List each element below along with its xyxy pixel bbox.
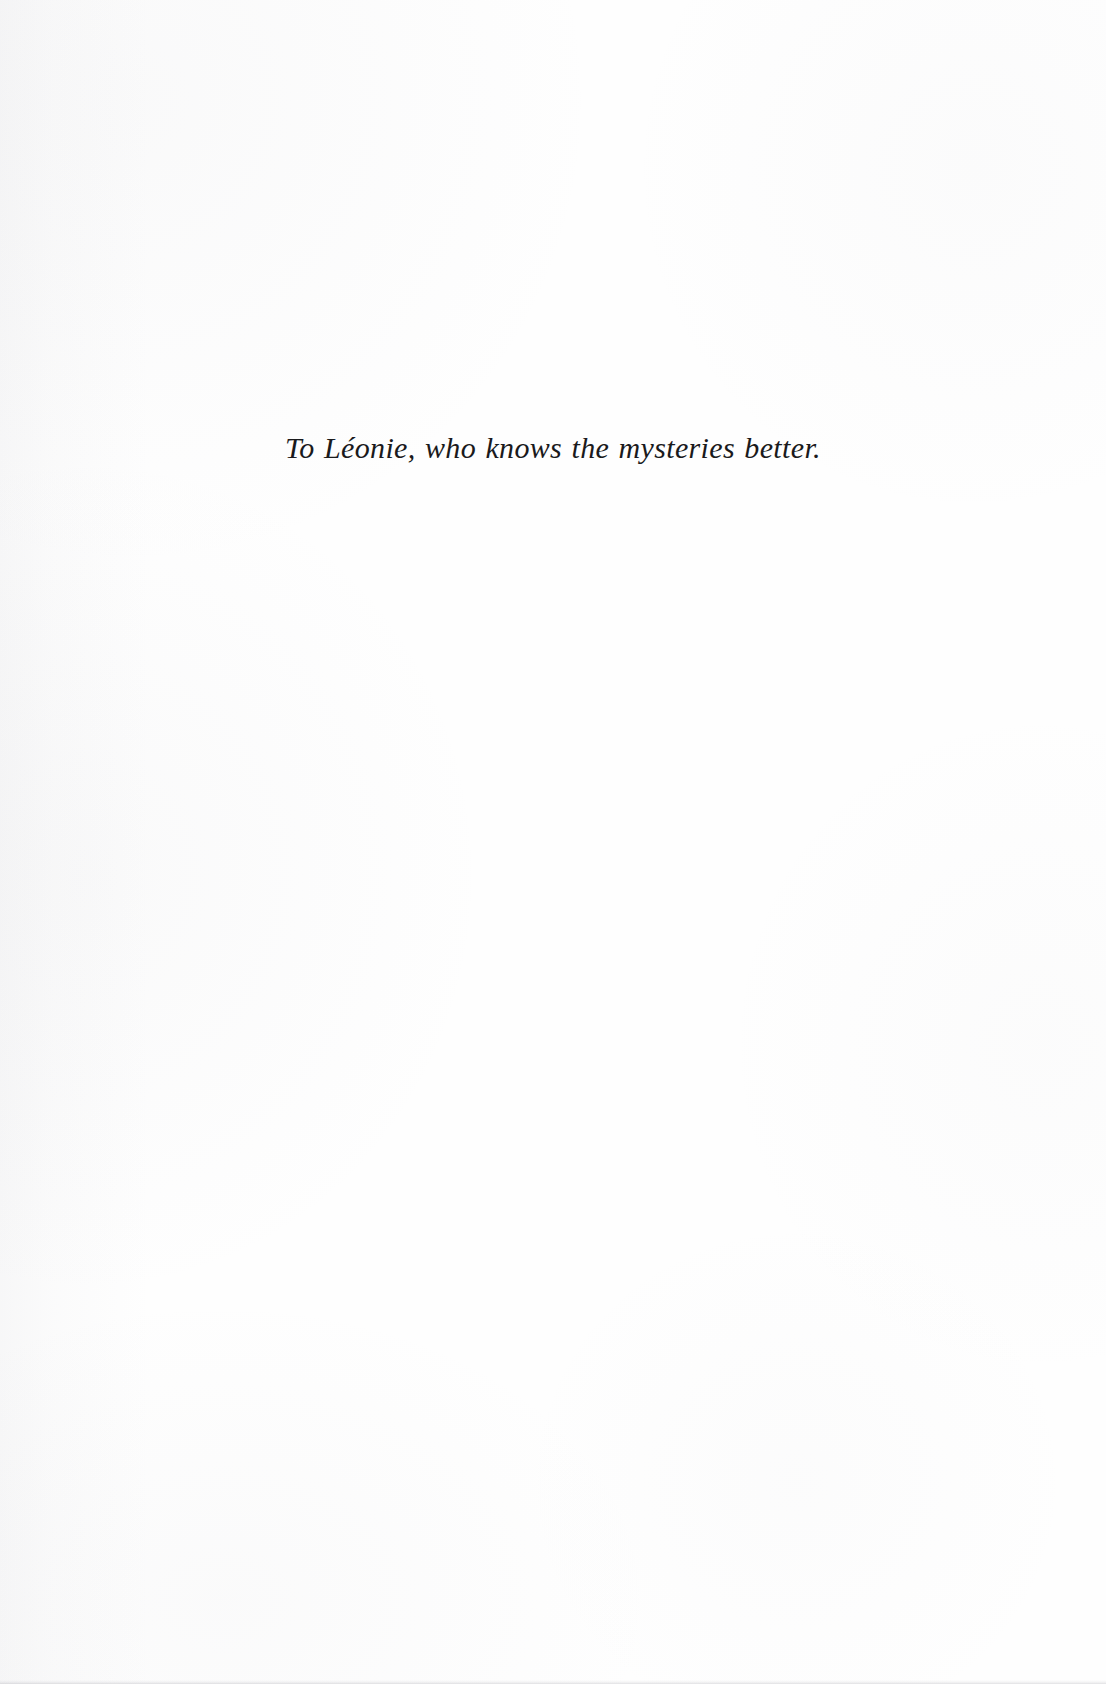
page-bottom-edge-shadow (0, 1680, 1106, 1684)
dedication-block: To Léonie, who knows the mysteries bette… (0, 398, 1106, 498)
dedication-page: To Léonie, who knows the mysteries bette… (0, 0, 1106, 1684)
dedication-text: To Léonie, who knows the mysteries bette… (285, 428, 821, 468)
paper-texture-overlay (0, 0, 1106, 1684)
binding-gutter-shade (0, 0, 150, 1684)
